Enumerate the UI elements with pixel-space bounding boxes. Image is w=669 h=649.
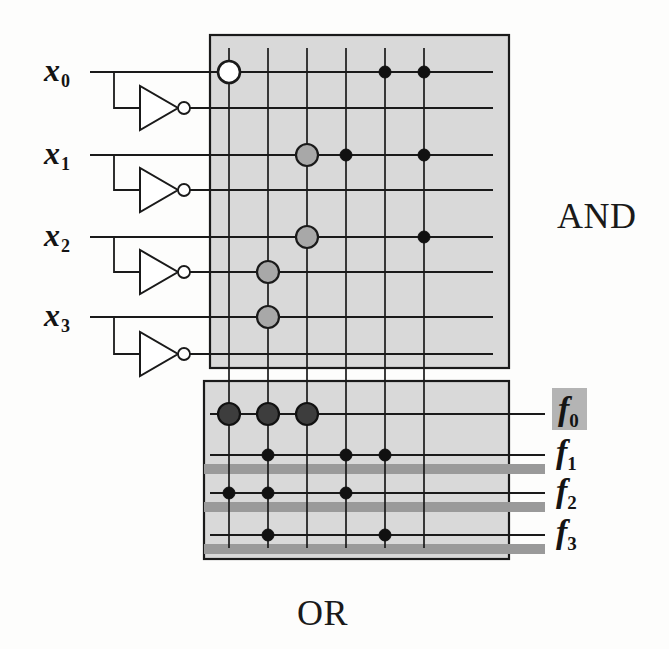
output-label-sub-f1: 1 xyxy=(567,453,577,474)
input-label-sub-x1: 1 xyxy=(61,154,70,174)
and-x3-col2-gray xyxy=(257,306,279,328)
output-label-sub-f2: 2 xyxy=(567,492,577,513)
output-label-text-f2: f xyxy=(556,472,567,509)
input-label-sub-x2: 2 xyxy=(61,236,70,256)
plane-boxes xyxy=(204,35,509,559)
and-x1-col6 xyxy=(418,149,430,161)
or-output-bar-f1 xyxy=(204,464,545,474)
inverter-triangle-x0 xyxy=(140,86,178,130)
inverter-tap-x0 xyxy=(114,72,140,108)
or-f1-col4 xyxy=(340,449,352,461)
output-label-f1: f1 xyxy=(556,433,577,471)
output-label-text-f3: f xyxy=(556,513,567,550)
or-f0-col3 xyxy=(296,403,318,425)
or-f0-col1 xyxy=(218,403,240,425)
input-label-sub-x3: 3 xyxy=(61,316,70,336)
and-plane-box xyxy=(210,35,509,368)
input-label-text-x1: x xyxy=(44,135,60,171)
output-label-f0: f0 xyxy=(552,388,587,430)
input-label-text-x2: x xyxy=(44,217,60,253)
or-plane-caption: OR xyxy=(297,592,348,634)
inverter-triangle-x3 xyxy=(140,332,178,376)
and-plane-caption: AND xyxy=(557,195,637,237)
inverter-x0 xyxy=(114,72,190,130)
inverter-triangle-x2 xyxy=(140,250,178,294)
and-x0-col1-hollow xyxy=(218,61,240,83)
or-f3-col2 xyxy=(262,529,274,541)
or-f3-col5 xyxy=(379,529,391,541)
input-label-x2: x2 xyxy=(44,217,69,254)
pla-figure: x0 x1 x2 x3 f0 f1 f2 f3 AND OR xyxy=(0,0,669,649)
or-f1-col5 xyxy=(379,449,391,461)
input-inverters xyxy=(114,72,190,376)
inverter-x3 xyxy=(114,317,190,376)
inverter-tap-x2 xyxy=(114,237,140,272)
and-x1-col4 xyxy=(340,149,352,161)
inverter-bubble-x3 xyxy=(178,348,190,360)
output-label-f3: f3 xyxy=(556,513,577,551)
output-label-text-f1: f xyxy=(556,433,567,470)
and-x1-col3-gray xyxy=(296,144,318,166)
inverter-x2 xyxy=(114,237,190,294)
or-output-bar-f2 xyxy=(204,502,545,512)
input-label-sub-x0: 0 xyxy=(61,71,70,91)
inverter-tap-x1 xyxy=(114,155,140,190)
output-label-text-f0: f xyxy=(558,390,569,427)
inverter-bubble-x2 xyxy=(178,266,190,278)
input-label-x1: x1 xyxy=(44,135,69,172)
or-f2-col1 xyxy=(223,487,235,499)
and-x2-col3-gray xyxy=(296,226,318,248)
inverter-x1 xyxy=(114,155,190,212)
inverter-triangle-x1 xyxy=(140,168,178,212)
input-label-x3: x3 xyxy=(44,297,69,334)
output-label-sub-f0: 0 xyxy=(569,410,579,431)
output-label-sub-f3: 3 xyxy=(567,533,577,554)
or-f0-col2 xyxy=(257,403,279,425)
and-x2comp-col2-gray xyxy=(257,261,279,283)
inverter-tap-x3 xyxy=(114,317,140,354)
input-label-text-x0: x xyxy=(44,52,60,88)
input-label-x0: x0 xyxy=(44,52,69,89)
output-label-f2: f2 xyxy=(556,472,577,510)
or-f2-col4 xyxy=(340,487,352,499)
and-x2-col6 xyxy=(418,231,430,243)
and-x0-col5 xyxy=(379,66,391,78)
or-f2-col2 xyxy=(262,487,274,499)
and-x0-col6 xyxy=(418,66,430,78)
inverter-bubble-x1 xyxy=(178,184,190,196)
input-label-text-x3: x xyxy=(44,297,60,333)
inverter-bubble-x0 xyxy=(178,102,190,114)
or-f1-col2 xyxy=(262,449,274,461)
or-output-bar-f3 xyxy=(204,544,545,554)
